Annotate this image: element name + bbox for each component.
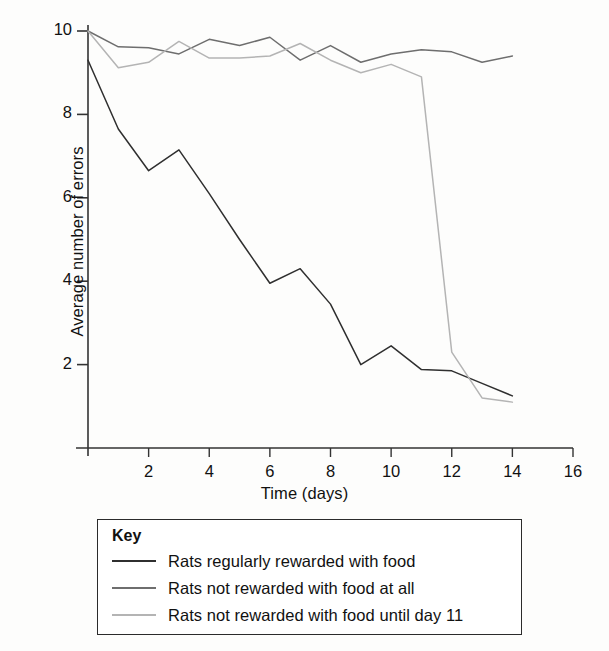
x-tick-label-6: 6 [250, 462, 290, 481]
legend-line-swatch-0 [112, 560, 156, 562]
legend-item-not-rewarded-until-day-11: Rats not rewarded with food until day 11 [112, 603, 463, 627]
x-tick-label-14: 14 [492, 462, 532, 481]
legend-line-swatch-1 [112, 587, 156, 589]
y-tick-label-8: 8 [26, 103, 72, 122]
chart-page: Average number of errors Time (days) 246… [0, 0, 609, 651]
legend-label-1: Rats not rewarded with food at all [168, 579, 415, 598]
x-axis-title: Time (days) [0, 484, 609, 503]
axis-ticks [77, 31, 573, 457]
y-tick-label-4: 4 [26, 270, 72, 289]
legend-title: Key [112, 527, 141, 545]
line-chart-figure: Average number of errors Time (days) 246… [0, 0, 609, 510]
legend-label-2: Rats not rewarded with food until day 11 [168, 606, 463, 625]
x-tick-label-16: 16 [553, 462, 593, 481]
y-tick-label-6: 6 [26, 187, 72, 206]
x-tick-label-10: 10 [371, 462, 411, 481]
x-tick-label-8: 8 [311, 462, 351, 481]
plot-area [0, 0, 609, 510]
x-tick-label-2: 2 [129, 462, 169, 481]
legend-item-regularly-rewarded: Rats regularly rewarded with food [112, 549, 415, 573]
axis-lines [76, 25, 573, 456]
y-tick-label-2: 2 [26, 354, 72, 373]
legend-label-0: Rats regularly rewarded with food [168, 552, 415, 571]
x-tick-label-12: 12 [432, 462, 472, 481]
y-tick-label-10: 10 [26, 20, 72, 39]
legend-key-box: Key Rats regularly rewarded with food Ra… [97, 519, 522, 635]
legend-line-swatch-2 [112, 614, 156, 616]
legend-item-not-rewarded: Rats not rewarded with food at all [112, 576, 415, 600]
series-lines [88, 31, 512, 402]
x-tick-label-4: 4 [189, 462, 229, 481]
